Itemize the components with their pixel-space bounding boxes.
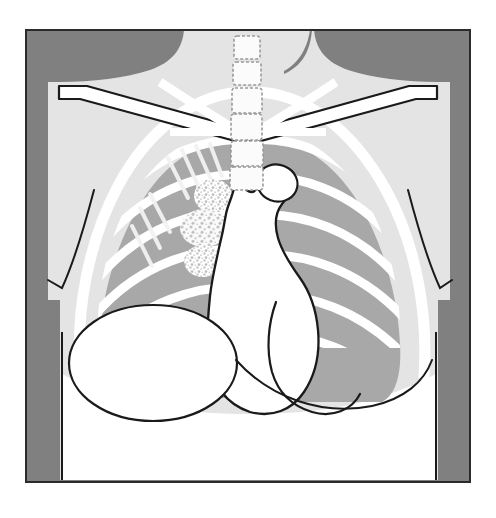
radiograph-plate <box>26 30 470 482</box>
chest-radiograph-illustration <box>0 0 496 518</box>
right-hemidiaphragm <box>69 305 237 421</box>
vertebra-2 <box>233 62 261 85</box>
vertebra-6 <box>230 167 263 190</box>
vertebra-5 <box>231 141 263 166</box>
left-lateral-background <box>26 300 60 482</box>
chest-xray-figure: thoracic soft tissue silhouette <box>0 0 496 518</box>
vertebra-3 <box>232 88 262 113</box>
infiltrate-1 <box>194 179 232 213</box>
vertebra-1 <box>234 36 260 59</box>
vertebra-4 <box>231 114 262 140</box>
right-lateral-background <box>438 300 470 482</box>
